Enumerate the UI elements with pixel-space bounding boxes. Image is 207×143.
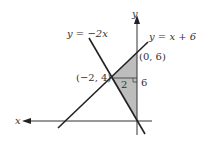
point-label-0-6: (0, 6): [139, 51, 166, 62]
x-axis-arrow-icon: [22, 118, 31, 124]
line-label-x-plus-6: y = x + 6: [148, 31, 197, 42]
coordinate-diagram: x y y = −2x y = x + 6 (0, 6) (−2, 4) 2 6: [0, 0, 207, 143]
line-label-neg-2x: y = −2x: [66, 28, 108, 39]
x-axis-label: x: [15, 115, 21, 126]
y-axis-label: y: [131, 8, 138, 19]
point-label-neg2-4: (−2, 4): [76, 72, 111, 83]
base-measure-label: 2: [121, 79, 127, 90]
height-measure-label: 6: [141, 77, 147, 88]
